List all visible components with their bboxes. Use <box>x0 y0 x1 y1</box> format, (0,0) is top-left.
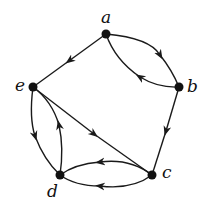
node-d <box>56 171 65 180</box>
edge-e-d-tail <box>35 136 60 175</box>
edge-a-b-tail <box>160 55 179 87</box>
edge-d-e-tail <box>33 87 59 125</box>
node-label-a: a <box>101 9 111 26</box>
edge-b-c <box>166 87 179 131</box>
node-b <box>175 83 184 92</box>
node-c <box>148 171 157 180</box>
node-label-e: e <box>15 77 25 94</box>
edge-b-a-tail <box>106 34 140 77</box>
edge-e-d <box>31 87 35 136</box>
node-label-b: b <box>187 78 198 95</box>
edge-a-e-tail <box>33 61 70 88</box>
edge-a-e <box>70 34 107 61</box>
node-label-d: d <box>47 183 58 200</box>
directed-graph-diagram: a b c d e <box>0 0 208 210</box>
edge-c-d-upper-tail <box>60 162 100 175</box>
edge-c-d-upper <box>100 161 152 175</box>
edge-b-a <box>140 77 179 87</box>
node-a <box>102 30 111 39</box>
edge-d-e <box>59 125 62 175</box>
node-label-c: c <box>162 164 172 181</box>
edge-c-d-lower-tail <box>60 175 100 186</box>
graph-canvas <box>0 0 208 210</box>
edge-c-d-lower <box>100 175 152 187</box>
node-e <box>29 83 38 92</box>
